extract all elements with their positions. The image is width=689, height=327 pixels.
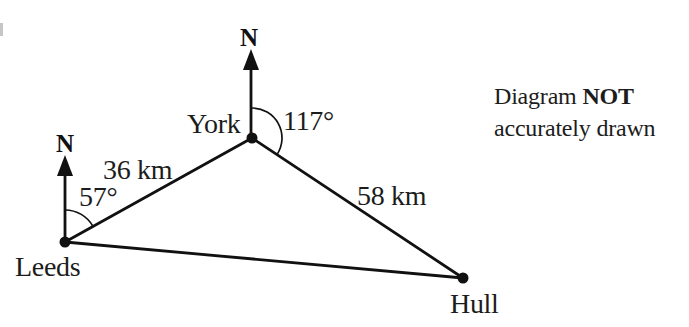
scan-edge-artifact	[0, 23, 3, 36]
line-leeds-hull	[65, 242, 463, 278]
york-label: York	[187, 110, 241, 138]
bearing-leeds-label: 57°	[79, 183, 117, 211]
north-arrowhead-leeds-icon	[57, 155, 73, 176]
hull-label: Hull	[450, 290, 499, 318]
distance-york-hull-label: 58 km	[357, 182, 426, 210]
note-line1-bold: NOT	[582, 83, 633, 109]
not-accurate-note: Diagram NOT accurately drawn	[494, 81, 655, 144]
angle-arc-leeds	[65, 210, 93, 226]
hull-point	[458, 273, 469, 284]
north-label-york: N	[240, 25, 258, 50]
distance-leeds-york-label: 36 km	[103, 156, 172, 184]
leeds-label: Leeds	[15, 253, 80, 281]
leeds-point	[60, 237, 71, 248]
note-line1-normal: Diagram	[494, 83, 577, 109]
bearing-york-label: 117°	[283, 107, 334, 135]
north-label-leeds: N	[56, 131, 74, 156]
york-point	[247, 133, 258, 144]
note-line1: Diagram NOT	[494, 81, 655, 113]
north-arrowhead-york-icon	[243, 49, 259, 70]
bearings-diagram: N N York Leeds Hull 36 km 58 km 57° 117°…	[0, 0, 689, 327]
note-line2: accurately drawn	[494, 113, 655, 145]
